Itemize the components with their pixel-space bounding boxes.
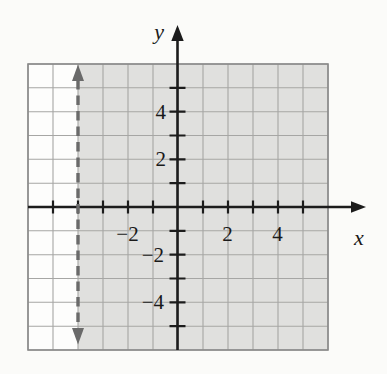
- y-tick-label-4: 4: [156, 100, 167, 124]
- y-tick-label-neg4: −4: [142, 290, 165, 314]
- coordinate-plane-figure: 4 2 −2 −4 −2 2 4 y x: [0, 0, 387, 374]
- y-tick-label-neg2: −2: [142, 243, 164, 267]
- coordinate-plane-svg: 4 2 −2 −4 −2 2 4 y x: [0, 0, 387, 374]
- x-tick-label-2: 2: [222, 222, 233, 246]
- y-axis-label: y: [152, 19, 164, 44]
- x-tick-label-4: 4: [272, 222, 283, 246]
- y-tick-label-2: 2: [156, 147, 167, 171]
- x-tick-label-neg2: −2: [116, 222, 138, 246]
- x-axis-label: x: [353, 225, 364, 250]
